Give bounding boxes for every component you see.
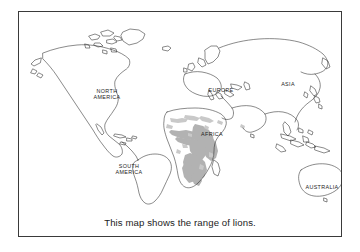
figure-caption: This map shows the range of lions. xyxy=(19,208,341,236)
world-map-svg xyxy=(19,12,341,208)
caption-text: This map shows the range of lions. xyxy=(104,217,256,228)
map-figure: NORTH AMERICA SOUTH AMERICA EUROPE AFRIC… xyxy=(18,11,342,237)
world-map: NORTH AMERICA SOUTH AMERICA EUROPE AFRIC… xyxy=(19,12,341,208)
